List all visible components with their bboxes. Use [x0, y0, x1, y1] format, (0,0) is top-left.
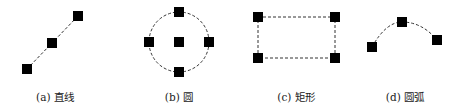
- control-handle-square: [174, 37, 184, 47]
- control-handle-square: [330, 12, 340, 22]
- caption-a-line: (a) 直线: [36, 89, 74, 104]
- panel-arc: [367, 17, 442, 52]
- panel-circle: [144, 7, 214, 77]
- control-handle-square: [73, 11, 83, 21]
- control-handle-square: [432, 35, 442, 45]
- control-handle-square: [330, 53, 340, 63]
- control-handle-square: [253, 53, 263, 63]
- control-handle-square: [253, 12, 263, 22]
- caption-d-arc: (d) 圆弧: [386, 89, 424, 104]
- panel-line: [22, 11, 83, 74]
- control-handle-square: [144, 37, 154, 47]
- control-handle-square: [22, 64, 32, 74]
- control-handle-square: [47, 38, 57, 48]
- caption-b-circle: (b) 圆: [165, 89, 193, 104]
- control-handle-square: [174, 67, 184, 77]
- control-handle-square: [397, 17, 407, 27]
- caption-c-rectangle: (c) 矩形: [277, 89, 314, 104]
- control-handle-square: [367, 42, 377, 52]
- dashed-rectangle: [258, 17, 335, 58]
- panel-rectangle: [253, 12, 340, 63]
- control-handle-square: [174, 7, 184, 17]
- control-handle-square: [204, 37, 214, 47]
